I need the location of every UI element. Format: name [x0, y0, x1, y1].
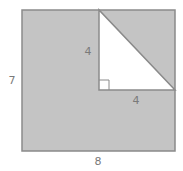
- diagram: 4 4 7 8: [0, 0, 183, 171]
- rectangle-width-label: 8: [95, 155, 102, 168]
- triangle-horizontal-label: 4: [133, 94, 140, 107]
- triangle-vertical-label: 4: [85, 45, 92, 58]
- rectangle-height-label: 7: [9, 74, 16, 87]
